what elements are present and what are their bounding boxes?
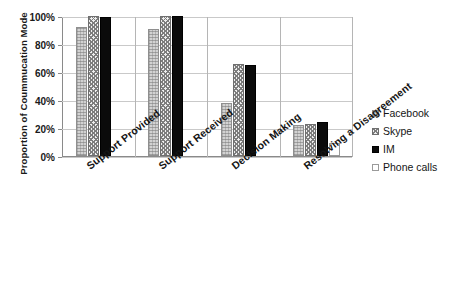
y-axis-tick-label: 60% (35, 68, 55, 79)
y-axis-tick-label: 20% (35, 124, 55, 135)
legend-label: Skype (383, 125, 412, 137)
bar (233, 64, 244, 156)
bar (148, 29, 159, 156)
y-axis-tick (58, 157, 62, 158)
bar (100, 17, 111, 156)
legend-label: Phone calls (383, 161, 437, 173)
y-axis-tick-label: 40% (35, 96, 55, 107)
y-axis-tick-label: 0% (41, 152, 55, 163)
figure: Proportion of Coummucation Mode 0%20%40%… (0, 0, 457, 294)
legend-swatch-icon (372, 146, 379, 153)
y-axis-title: Proportion of Coummucation Mode (18, 0, 29, 189)
chart-legend: FacebookSkypeIMPhone calls (372, 104, 456, 176)
bar (76, 27, 87, 156)
y-axis-tick-label: 100% (29, 12, 55, 23)
legend-swatch-icon (372, 128, 379, 135)
legend-label: Facebook (383, 107, 429, 119)
legend-item: IM (372, 140, 456, 158)
legend-item: Phone calls (372, 158, 456, 176)
legend-swatch-icon (372, 164, 379, 171)
y-axis-tick-label: 80% (35, 40, 55, 51)
bar (160, 16, 171, 156)
legend-item: Skype (372, 122, 456, 140)
bar (172, 16, 183, 156)
bar (293, 125, 304, 156)
legend-label: IM (383, 143, 395, 155)
bar (88, 16, 99, 156)
